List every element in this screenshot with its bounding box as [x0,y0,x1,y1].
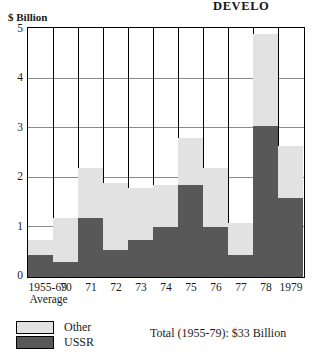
chart-plot-area [27,27,305,278]
y-tick-5: 5 [17,23,23,35]
x-tick-label: 75 [178,281,203,293]
bar-column [203,29,228,277]
bar-column [128,29,153,277]
x-tick-label: 73 [129,281,154,293]
total-annotation: Total (1955-79): $33 Billion [150,326,286,341]
bar-segment-other [203,168,228,227]
bar-segment-ussr [78,218,103,277]
y-tick-2: 2 [17,172,23,184]
x-tick-label: 71 [79,281,104,293]
y-tick-4: 4 [17,72,23,84]
bar-column [103,29,128,277]
bar-segment-other [78,168,103,218]
legend-swatch-other [16,321,54,334]
bar-segment-ussr [228,255,253,277]
bar-column [53,29,78,277]
x-tick-label: 1979 [278,281,303,293]
x-tick-label: 70 [54,281,79,293]
x-tick-label: 78 [253,281,278,293]
bar-segment-other [178,138,203,185]
bar-segment-ussr [28,255,53,277]
x-tick-label: 1955-69Average [29,281,54,305]
bar-column [78,29,103,277]
page-title: DEVELO [213,0,269,14]
x-tick-label: 76 [203,281,228,293]
y-axis-label: $ Billion [8,11,47,23]
x-axis-tick-labels: 1955-69Average7071727374757677781979 [27,281,305,315]
bar-segment-other [28,240,53,255]
x-tick-label: 77 [228,281,253,293]
bar-column [253,29,278,277]
bar-segment-ussr [53,262,78,277]
bar-column [28,29,53,277]
y-tick-3: 3 [17,122,23,134]
bar-segment-ussr [253,126,278,277]
y-tick-1: 1 [17,221,23,233]
bar-segment-other [103,183,128,250]
bar-segment-ussr [278,198,303,277]
bar-segment-ussr [128,240,153,277]
bar-segment-other [128,188,153,240]
bar-segment-ussr [178,185,203,277]
chart-plot-inner [28,28,304,277]
bar-segment-other [253,34,278,126]
bar-segment-ussr [203,227,228,277]
bar-segment-ussr [103,250,128,277]
bar-column [153,29,178,277]
legend-label-other: Other [64,320,91,335]
x-tick-label: 74 [154,281,179,293]
y-tick-0: 0 [17,271,23,283]
bar-column [278,29,303,277]
legend-label-ussr: USSR [64,335,94,350]
x-tick-label: 72 [104,281,129,293]
legend-swatch-ussr [16,336,54,349]
bar-segment-other [153,185,178,227]
bar-column [178,29,203,277]
bar-segment-other [278,146,303,198]
bar-column [228,29,253,277]
bar-segment-ussr [153,227,178,277]
bar-segment-other [228,223,253,255]
bar-segment-other [53,218,78,263]
